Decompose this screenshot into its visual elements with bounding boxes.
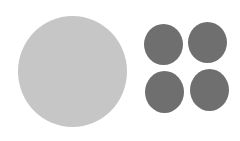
- small-circle-top-right: [188, 22, 227, 63]
- small-circle-top-left: [144, 24, 183, 65]
- small-circle-bottom-right: [190, 69, 229, 111]
- small-circle-bottom-left: [145, 71, 184, 113]
- large-circle: [18, 16, 127, 127]
